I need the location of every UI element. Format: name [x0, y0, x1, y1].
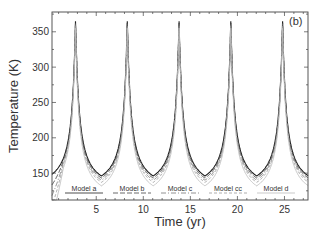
y-tick-label: 350: [32, 26, 49, 37]
y-tick-label: 150: [32, 168, 49, 179]
legend-label: Model a: [72, 185, 97, 192]
y-tick-label: 250: [32, 97, 49, 108]
panel-label: (b): [289, 15, 302, 27]
temperature-chart: 510152025 150200250300350 Model aModel b…: [0, 0, 325, 245]
x-tick-label: 25: [279, 204, 291, 215]
series-curves: [52, 21, 308, 200]
y-axis-ticks: 150200250300350: [32, 14, 308, 191]
legend-label: Model cc: [214, 185, 243, 192]
x-tick-label: 5: [93, 204, 99, 215]
series-line-4: [52, 28, 308, 200]
legend-label: Model c: [168, 185, 193, 192]
legend-label: Model b: [120, 185, 145, 192]
y-tick-label: 200: [32, 132, 49, 143]
legend: Model aModel bModel cModel ccModel d: [65, 185, 295, 193]
y-axis-label: Temperature (K): [6, 59, 21, 153]
x-tick-label: 20: [232, 204, 244, 215]
y-tick-label: 300: [32, 62, 49, 73]
legend-label: Model d: [264, 185, 289, 192]
x-axis-label: Time (yr): [154, 214, 206, 229]
x-tick-label: 10: [138, 204, 150, 215]
